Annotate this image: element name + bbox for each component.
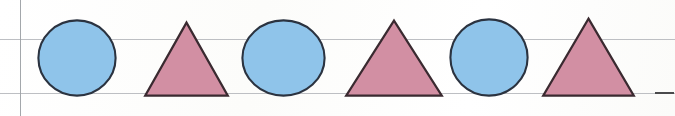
baseline-tick-icon — [655, 92, 674, 94]
pattern-shape-3-circle — [241, 19, 326, 97]
circle-icon — [241, 19, 326, 97]
pattern-shape-2-triangle — [144, 21, 229, 97]
circle-icon — [37, 19, 117, 97]
circle-icon — [449, 18, 529, 97]
pattern-shape-4-triangle — [345, 19, 443, 97]
pattern-worksheet-strip: Repeating pattern of blue circles and pi… — [0, 0, 675, 116]
pattern-shape-1-circle — [37, 19, 117, 97]
pattern-shape-6-triangle — [542, 17, 635, 97]
triangle-icon — [542, 17, 635, 97]
pattern-shape-5-circle — [449, 18, 529, 97]
margin-line — [20, 0, 21, 116]
triangle-icon — [144, 21, 229, 97]
figure-caption: Repeating pattern of blue circles and pi… — [0, 16, 1, 17]
triangle-icon — [345, 19, 443, 97]
